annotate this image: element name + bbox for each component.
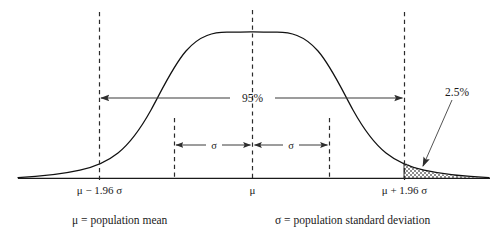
axis-tick-label-mu-minus-1.96-sigma: μ − 1.96 σ [77, 184, 123, 196]
sigma-right-label: σ [288, 140, 294, 151]
axis-tick-label-mu: μ [250, 184, 256, 196]
sigma-left-label: σ [211, 140, 217, 151]
axis-tick-label-mu-plus-1.96-sigma: μ + 1.96 σ [382, 184, 428, 196]
tail-callout-arrow [423, 100, 452, 166]
normal-distribution-curve [18, 32, 489, 178]
legend-mean-definition: μ = population mean [72, 214, 168, 227]
upper-tail-shaded-region [404, 163, 489, 179]
interval-95-label: 95% [242, 92, 264, 104]
figure-canvas: 95% σ σ 2.5% μ − 1.96 σ μ μ + 1.96 σ μ =… [0, 0, 500, 238]
normal-distribution-figure: 95% σ σ 2.5% μ − 1.96 σ μ μ + 1.96 σ μ =… [0, 0, 500, 238]
tail-pct-label: 2.5% [445, 86, 469, 98]
legend-sd-definition: σ = population standard deviation [275, 214, 430, 227]
